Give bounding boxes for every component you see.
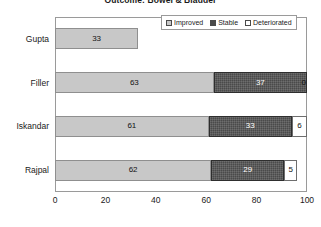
x-tick-label-40: 40 [151,195,160,205]
stable-swatch-icon [210,20,216,26]
bar-row: 61336 [55,116,307,137]
chart-title: Outcome: Bowel & Bladder [0,0,321,5]
chart-legend: Improved Stable Deteriorated [161,15,297,30]
bar-value-label: 6 [297,122,301,130]
category-label-gupta: Gupta [0,34,49,44]
legend-item-stable: Stable [210,19,238,26]
legend-label-improved: Improved [174,19,203,26]
category-label-filler: Filler [0,78,49,88]
bar-value-label: 0 [302,79,306,87]
bar-segment-stable: 29 [211,160,284,181]
legend-label-stable: Stable [218,19,238,26]
bar-value-label: 37 [256,79,265,87]
bar-value-label: 63 [130,79,139,87]
bar-value-label: 33 [246,122,255,130]
bar-row: 62295 [55,160,307,181]
x-tick-label-60: 60 [201,195,210,205]
deteriorated-swatch-icon [245,20,251,26]
bar-value-label: 62 [129,166,138,174]
bar-value-label: 61 [127,122,136,130]
x-tick-label-100: 100 [300,195,314,205]
bar-value-label: 29 [243,166,252,174]
bar-segment-improved: 63 [55,72,214,93]
x-tick-label-20: 20 [101,195,110,205]
bar-row: 63370 [55,72,307,93]
bar-segment-deteriorated: 6 [292,116,307,137]
category-label-iskandar: Iskandar [0,121,49,131]
improved-swatch-icon [166,20,172,26]
bar-segment-stable: 33 [209,116,292,137]
legend-item-improved: Improved [166,19,203,26]
legend-label-deteriorated: Deteriorated [253,19,292,26]
x-tick-label-80: 80 [252,195,261,205]
bar-value-label: 5 [288,166,292,174]
bar-segment-improved: 33 [55,28,138,49]
bar-value-label: 33 [92,35,101,43]
legend-item-deteriorated: Deteriorated [245,19,292,26]
bar-segment-deteriorated: 5 [284,160,297,181]
category-label-rajpal: Rajpal [0,165,49,175]
chart-container: Outcome: Bowel & Bladder Improved Stable… [0,0,321,227]
bar-segment-improved: 62 [55,160,211,181]
x-tick-label-0: 0 [53,195,58,205]
bar-row: 33 [55,28,307,49]
bar-segment-stable: 37 [214,72,307,93]
bar-segment-improved: 61 [55,116,209,137]
